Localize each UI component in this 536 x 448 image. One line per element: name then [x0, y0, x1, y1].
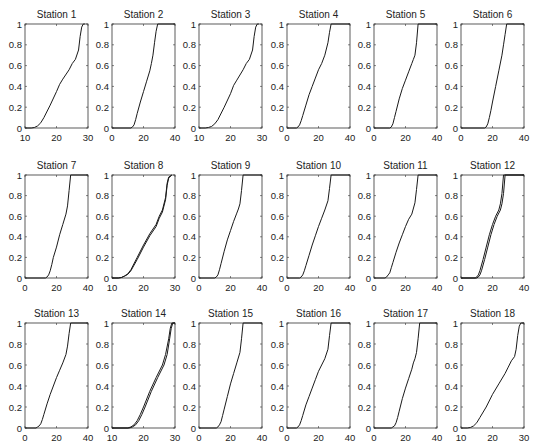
x-tick-label: 40	[170, 132, 181, 143]
y-tick-label: 1	[191, 19, 196, 30]
y-tick-label: 0.8	[183, 339, 196, 350]
y-tick-label: 0.8	[358, 39, 371, 50]
y-tick-label: 0.2	[96, 402, 109, 413]
y-tick-label: 0.4	[271, 81, 284, 92]
x-tick-label: 20	[400, 282, 411, 293]
x-tick-label: 40	[257, 282, 268, 293]
x-tick-label: 0	[109, 132, 114, 143]
y-tick-label: 1	[104, 318, 109, 329]
y-tick-label: 0	[453, 273, 458, 284]
subplot-title: Station 15	[208, 308, 253, 319]
subplot-title: Station 17	[383, 308, 428, 319]
subplot-title: Station 18	[470, 308, 515, 319]
x-tick-label: 20	[138, 282, 149, 293]
subplot-title: Station 6	[473, 9, 513, 20]
y-tick-label: 0.8	[183, 190, 196, 201]
x-tick-label: 0	[284, 282, 289, 293]
y-tick-label: 1	[279, 19, 284, 30]
subplot-station-4: Station 400.20.40.60.8102040	[271, 9, 356, 143]
axes-box	[112, 24, 175, 128]
x-tick-label: 10	[456, 432, 467, 443]
y-tick-label: 0	[366, 423, 371, 434]
axes-box	[374, 24, 437, 128]
x-tick-label: 40	[432, 432, 443, 443]
y-tick-label: 0	[279, 123, 284, 134]
subplot-station-18: Station 1800.20.40.60.81102030	[445, 308, 530, 443]
y-tick-label: 0.6	[445, 60, 458, 71]
y-tick-label: 1	[453, 19, 458, 30]
y-tick-label: 0.4	[9, 381, 22, 392]
y-tick-label: 1	[191, 170, 196, 181]
y-tick-label: 0.6	[271, 360, 284, 371]
subplot-title: Station 10	[296, 160, 341, 171]
axes-box	[287, 24, 350, 128]
y-tick-label: 0.6	[445, 360, 458, 371]
x-tick-label: 20	[487, 132, 498, 143]
axes-box	[25, 24, 88, 128]
y-tick-label: 1	[104, 19, 109, 30]
axes-box	[199, 323, 262, 428]
y-tick-label: 0.6	[9, 60, 22, 71]
y-tick-label: 0.4	[271, 381, 284, 392]
x-tick-label: 20	[313, 432, 324, 443]
axes-box	[199, 24, 262, 128]
x-tick-label: 0	[371, 132, 376, 143]
x-tick-label: 0	[458, 282, 463, 293]
y-tick-label: 0.6	[358, 60, 371, 71]
x-tick-label: 30	[83, 132, 94, 143]
x-tick-label: 40	[83, 282, 94, 293]
x-tick-label: 30	[519, 432, 530, 443]
x-tick-label: 0	[196, 432, 201, 443]
x-tick-label: 0	[371, 432, 376, 443]
y-tick-label: 0.6	[271, 211, 284, 222]
y-tick-label: 0.4	[183, 231, 196, 242]
y-tick-label: 1	[453, 170, 458, 181]
y-tick-label: 0.8	[271, 39, 284, 50]
y-tick-label: 0	[17, 423, 22, 434]
subplot-title: Station 3	[211, 9, 251, 20]
subplot-station-17: Station 1700.20.40.60.8102040	[358, 308, 443, 443]
y-tick-label: 0.2	[9, 402, 22, 413]
y-tick-label: 0.8	[96, 339, 109, 350]
y-tick-label: 0.6	[445, 211, 458, 222]
subplot-station-5: Station 500.20.40.60.8102040	[358, 9, 443, 143]
y-tick-label: 1	[453, 318, 458, 329]
y-tick-label: 0.2	[183, 402, 196, 413]
subplot-station-13: Station 1300.20.40.60.8102040	[9, 308, 94, 443]
subplot-station-2: Station 200.20.40.60.8102040	[96, 9, 181, 143]
y-tick-label: 1	[17, 19, 22, 30]
x-tick-label: 20	[138, 432, 149, 443]
subplot-station-16: Station 1600.20.40.60.8102040	[271, 308, 356, 443]
y-tick-label: 0.2	[271, 102, 284, 113]
y-tick-label: 0.6	[96, 211, 109, 222]
y-tick-label: 0.4	[358, 381, 371, 392]
x-tick-label: 20	[51, 132, 62, 143]
y-tick-label: 0.6	[358, 211, 371, 222]
y-tick-label: 0.2	[445, 252, 458, 263]
x-tick-label: 0	[458, 132, 463, 143]
y-tick-label: 0.2	[9, 252, 22, 263]
y-tick-label: 0	[366, 123, 371, 134]
x-tick-label: 40	[432, 282, 443, 293]
x-tick-label: 0	[284, 432, 289, 443]
subplot-station-14: Station 1400.20.40.60.81102030	[96, 308, 181, 443]
y-tick-label: 0.2	[9, 102, 22, 113]
y-tick-label: 0.4	[9, 231, 22, 242]
x-tick-label: 20	[225, 282, 236, 293]
subplot-station-12: Station 1200.20.40.60.8102040	[445, 160, 530, 293]
y-tick-label: 0.6	[96, 360, 109, 371]
x-tick-label: 20	[225, 132, 236, 143]
y-tick-label: 0.8	[96, 39, 109, 50]
x-tick-label: 30	[170, 432, 181, 443]
x-tick-label: 0	[371, 282, 376, 293]
axes-box	[25, 323, 88, 428]
x-tick-label: 20	[400, 432, 411, 443]
x-tick-label: 10	[20, 132, 31, 143]
y-tick-label: 0.6	[183, 360, 196, 371]
subplot-title: Station 1	[37, 9, 77, 20]
figure-canvas: Station 100.20.40.60.81102030Station 200…	[0, 0, 536, 448]
y-tick-label: 0.4	[445, 381, 458, 392]
y-tick-label: 1	[366, 318, 371, 329]
x-tick-label: 0	[22, 282, 27, 293]
subplot-title: Station 2	[124, 9, 164, 20]
